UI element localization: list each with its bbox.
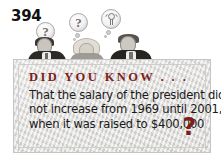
lightbulb-icon bbox=[106, 13, 117, 26]
lightbulb-bubble-icon bbox=[101, 9, 121, 29]
lightbulb-ray bbox=[105, 14, 108, 17]
person-figure-right bbox=[110, 32, 152, 62]
body-line: when it was raised to $400,000 bbox=[29, 117, 197, 132]
thought-dot-icon bbox=[75, 33, 80, 38]
did-you-know-body: That the salary of the president did not… bbox=[29, 88, 197, 132]
did-you-know-box-inner: DID YOU KNOW . . . That the salary of th… bbox=[18, 64, 206, 148]
did-you-know-heading: DID YOU KNOW . . . bbox=[29, 71, 197, 84]
did-you-know-box: DID YOU KNOW . . . That the salary of th… bbox=[13, 59, 211, 153]
question-mark-bubble-icon: ? bbox=[69, 13, 88, 32]
lightbulb-ray bbox=[115, 14, 118, 17]
lightbulb-neck bbox=[110, 19, 113, 25]
page-root: 394 ? ? bbox=[0, 0, 221, 165]
large-question-mark-icon: ? bbox=[182, 115, 196, 139]
body-line: That the salary of the president did bbox=[29, 88, 197, 103]
question-mark-glyph: ? bbox=[42, 25, 49, 38]
question-mark-glyph: ? bbox=[75, 16, 82, 29]
thought-dot-icon bbox=[104, 35, 107, 38]
body-line: not increase from 1969 until 2001, bbox=[29, 102, 197, 117]
illustration: ? ? bbox=[0, 0, 221, 62]
